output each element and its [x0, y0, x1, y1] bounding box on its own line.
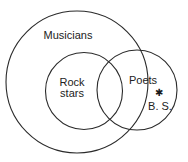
- poets-circle: [97, 50, 177, 130]
- bs-point-label: B. S.: [148, 100, 172, 112]
- rock-stars-label-line2: stars: [60, 87, 84, 99]
- asterisk-icon: ✱: [155, 87, 163, 98]
- venn-diagram: Musicians Rock stars Poets ✱ B. S.: [0, 0, 188, 162]
- musicians-label: Musicians: [44, 29, 93, 41]
- poets-label: Poets: [129, 74, 158, 86]
- rock-stars-circle: [46, 53, 123, 130]
